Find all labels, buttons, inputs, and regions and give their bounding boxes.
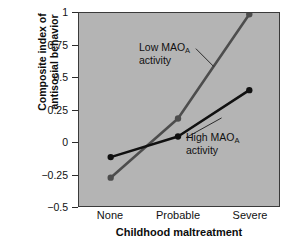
y-axis-title: Composite index of antisocial behavior xyxy=(36,0,60,152)
data-point xyxy=(175,115,181,121)
data-point xyxy=(246,87,252,93)
series-annotation-low-mao-line2: activity xyxy=(139,55,190,67)
series-annotation-low-mao: Low MAOA activity xyxy=(139,42,190,66)
series-annotation-low-mao-line1: Low MAO xyxy=(139,41,185,53)
series-annotation-high-mao: High MAOA activity xyxy=(186,132,239,156)
series-annotation-high-mao-line1: High MAO xyxy=(186,131,234,143)
y-tick-label: −0.5 xyxy=(0,201,68,213)
series-annotation-low-mao-sub: A xyxy=(185,46,190,55)
series-annotation-high-mao-line2: activity xyxy=(186,145,239,157)
y-tick-mark xyxy=(72,207,78,208)
x-tick-label-probable: Probable xyxy=(156,209,200,221)
data-point xyxy=(108,154,114,160)
x-tick-label-severe: Severe xyxy=(233,209,268,221)
x-tick-label-none: None xyxy=(97,209,123,221)
y-tick-label: −0.25 xyxy=(0,169,68,181)
x-axis-title: Childhood maltreatment xyxy=(78,226,280,238)
chart-figure: Composite index of antisocial behavior 1… xyxy=(0,0,291,250)
y-axis-title-line2: antisocial behavior xyxy=(48,0,60,152)
data-point xyxy=(175,133,181,139)
y-axis-title-line1: Composite index of xyxy=(36,0,48,152)
series-annotation-high-mao-sub: A xyxy=(234,136,239,145)
leader-line-low-mao xyxy=(196,49,214,67)
data-point xyxy=(108,175,114,181)
